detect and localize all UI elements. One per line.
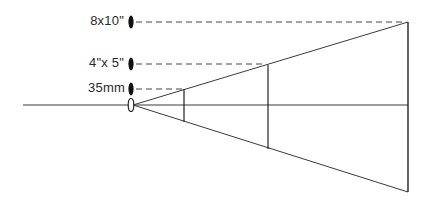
lens-marker-35mm-icon <box>128 83 133 96</box>
lens-open-icon <box>128 99 134 112</box>
upper-ray <box>133 22 408 105</box>
label-35mm: 35mm <box>65 80 125 95</box>
label-8x10: 8x10" <box>64 13 124 28</box>
format-comparison-diagram: 8x10" 4"x 5" 35mm <box>0 0 428 201</box>
label-4x5: 4"x 5" <box>64 55 124 70</box>
lens-marker-4x5-icon <box>128 58 133 71</box>
lens-marker-8x10-icon <box>128 16 133 29</box>
lower-ray <box>133 105 408 192</box>
diagram-canvas <box>0 0 428 201</box>
